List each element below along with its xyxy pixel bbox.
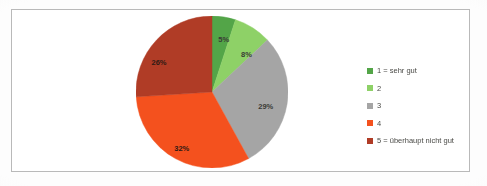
legend-item: 2	[367, 80, 487, 98]
legend-item-label: 5 = überhaupt nicht gut	[377, 137, 454, 145]
pie-plot-area: 5%8%29%32%26%	[124, 12, 299, 172]
legend-swatch-icon	[367, 68, 373, 74]
legend-item-label: 4	[377, 120, 381, 128]
legend-swatch-icon	[367, 120, 373, 126]
legend-item: 1 = sehr gut	[367, 62, 487, 80]
pie-slice	[136, 16, 212, 97]
pie-slices	[136, 16, 288, 168]
pie-chart	[136, 16, 288, 168]
legend-item-label: 2	[377, 85, 381, 93]
chart-frame: 5%8%29%32%26% 1 = sehr gut2345 = überhau…	[11, 9, 470, 172]
legend-item-label: 3	[377, 102, 381, 110]
legend-item: 3	[367, 97, 487, 115]
legend-swatch-icon	[367, 85, 373, 91]
legend-item: 4	[367, 115, 487, 133]
legend-item-label: 1 = sehr gut	[377, 67, 417, 75]
chart-legend: 1 = sehr gut2345 = überhaupt nicht gut	[367, 62, 487, 150]
legend-swatch-icon	[367, 138, 373, 144]
legend-item: 5 = überhaupt nicht gut	[367, 132, 487, 150]
legend-swatch-icon	[367, 103, 373, 109]
pie-chart-figure: 5%8%29%32%26% 1 = sehr gut2345 = überhau…	[0, 0, 487, 186]
